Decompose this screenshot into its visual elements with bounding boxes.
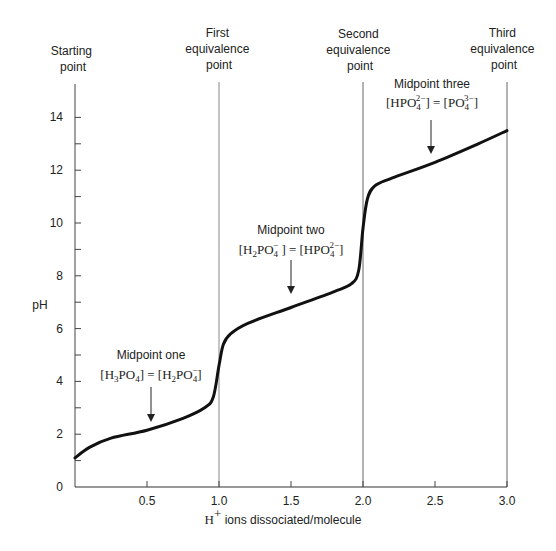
second-equivalence-label: Second equivalence point — [326, 27, 393, 73]
y-tick-label: 4 — [56, 374, 63, 388]
titration-curve — [75, 131, 507, 458]
x-tick-label: 0.5 — [139, 494, 156, 508]
midpoint-three-annotation: Midpoint three [HPO42−] = [PO43−] — [386, 77, 478, 154]
x-tick-label: 2.0 — [355, 494, 372, 508]
midpoint-two-annotation: Midpoint two [H2PO4− ] = [HPO42−] — [239, 223, 344, 294]
y-tick-label: 6 — [56, 322, 63, 336]
x-tick-label: 3.0 — [499, 494, 516, 508]
midpoint-one-annotation: Midpoint one [H3PO4] = [H2PO4−] — [100, 348, 201, 422]
svg-text:Midpoint two: Midpoint two — [257, 223, 325, 237]
y-tick-label: 0 — [56, 480, 63, 494]
x-tick-label: 2.5 — [427, 494, 444, 508]
svg-text:Midpoint one: Midpoint one — [117, 348, 186, 362]
svg-text:[HPO42−] = [PO43−]: [HPO42−] = [PO43−] — [386, 93, 478, 112]
arrow-down-icon — [287, 286, 295, 294]
y-axis-label: pH — [32, 298, 47, 312]
x-axis-ticks: 0.51.01.52.02.53.0 — [139, 481, 516, 508]
third-equivalence-label: Third equivalence point — [470, 26, 537, 72]
y-axis-ticks: 02468101214 — [50, 110, 81, 494]
starting-point-label: Starting point — [51, 44, 96, 74]
svg-text:[H2PO4− ] = [HPO42−]: [H2PO4− ] = [HPO42−] — [239, 240, 344, 259]
y-tick-label: 8 — [56, 269, 63, 283]
arrow-down-icon — [427, 146, 435, 154]
y-tick-label: 10 — [50, 216, 64, 230]
x-axis-label: H+ ions dissociated/molecule — [205, 506, 362, 527]
svg-text:[H3PO4] = [H2PO4−]: [H3PO4] = [H2PO4−] — [100, 365, 201, 384]
titration-chart: 02468101214 0.51.01.52.02.53.0 Starting … — [0, 0, 556, 551]
svg-text:Midpoint three: Midpoint three — [394, 77, 470, 91]
y-tick-label: 12 — [50, 163, 64, 177]
arrow-down-icon — [147, 414, 155, 422]
y-tick-label: 2 — [56, 427, 63, 441]
x-tick-label: 1.5 — [283, 494, 300, 508]
first-equivalence-label: First equivalence point — [185, 26, 252, 72]
y-tick-label: 14 — [50, 110, 64, 124]
